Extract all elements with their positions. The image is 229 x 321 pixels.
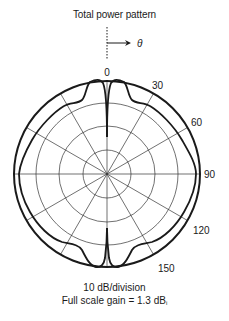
angle-label-0: 0 <box>104 67 110 78</box>
gain-text: Full scale gain = 1.3 dB <box>62 295 166 306</box>
gain-caption: Full scale gain = 1.3 dBi <box>0 295 229 306</box>
theta-label: θ <box>137 38 143 49</box>
gain-subscript: i <box>166 300 167 306</box>
scale-caption: 10 dB/division <box>0 282 229 293</box>
angle-label-60: 60 <box>191 117 203 128</box>
angle-label-30: 30 <box>152 80 164 91</box>
angle-label-150: 150 <box>158 263 175 274</box>
angle-label-120: 120 <box>193 225 210 236</box>
angle-label-90: 90 <box>204 169 216 180</box>
polar-plot: θ 0 30 60 90 120 150 <box>0 0 229 321</box>
theta-indicator: θ <box>107 27 143 60</box>
